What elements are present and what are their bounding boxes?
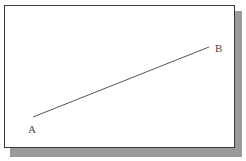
line-segment-ab [33, 47, 209, 117]
figure-root: A B [0, 0, 246, 161]
line-diagram-canvas [0, 0, 246, 161]
point-label-b: B [215, 43, 222, 54]
point-label-a: A [28, 124, 36, 135]
